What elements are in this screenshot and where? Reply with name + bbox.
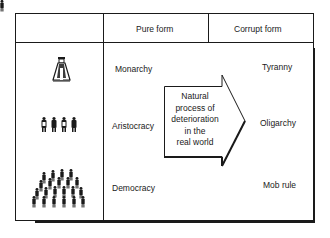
four-people-icon [42,117,77,132]
pure-form-democracy: Democracy [112,183,155,193]
pure-form-monarchy: Monarchy [115,64,152,74]
arrow-line: process of [166,103,224,115]
arrow-line: real world [166,137,224,149]
header-pure-form: Pure form [136,24,173,34]
header-corrupt-form: Corrupt form [234,24,282,34]
corrupt-form-oligarchy: Oligarchy [260,118,296,128]
monarch-figure-icon [53,57,70,81]
arrow-line: Natural [166,91,224,103]
arrow-line: deterioration [166,114,224,126]
corrupt-form-tyranny: Tyranny [262,62,292,72]
arrow-label: Natural process of deterioration in the … [166,91,224,149]
government-forms-diagram: Pure form Corrupt form Monarchy Aristocr… [0,0,330,238]
crowd-icon [0,0,84,208]
arrow-line: in the [166,126,224,138]
pure-form-aristocracy: Aristocracy [112,121,154,131]
corrupt-form-mob-rule: Mob rule [263,180,296,190]
